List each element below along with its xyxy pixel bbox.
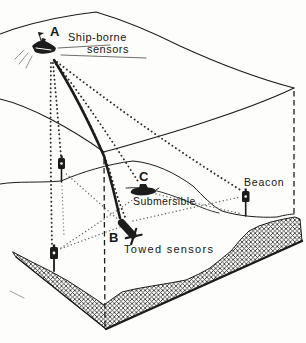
label-ship-borne-sensors-line1: Ship-borne — [68, 32, 127, 43]
sea-surface-outline — [0, 12, 294, 152]
label-beacon: Beacon — [244, 177, 284, 188]
label-ship-borne-sensors-line2: sensors — [87, 44, 129, 55]
beacon-icon — [242, 189, 250, 217]
ray-ship-to-submersible — [56, 63, 139, 183]
ray-upper-left-beacon-down — [62, 186, 64, 237]
seafloor-crosshatch — [10, 217, 302, 329]
acoustic-rays-from-ship — [51, 62, 242, 246]
figure-canvas: A Ship-borne sensors C Submersible B Tow… — [0, 0, 306, 343]
diagram-lineart — [0, 0, 306, 343]
label-submersible: Submersible — [133, 196, 196, 207]
seafloor-bottom-edge — [16, 257, 106, 329]
label-point-b: B — [109, 231, 118, 244]
label-point-c: C — [139, 170, 148, 183]
label-point-a: A — [50, 25, 59, 38]
submersible-icon — [131, 184, 159, 195]
ray-towed-to-upper-left-beacon — [64, 172, 122, 223]
ship-wake-strokes — [15, 50, 32, 68]
ray-ship-to-upper-left-beacon — [53, 63, 61, 157]
ray-ship-to-lower-left-beacon — [51, 63, 52, 246]
beacon-icon — [58, 156, 65, 183]
acoustic-rays-secondary — [60, 172, 242, 249]
label-towed-sensors: Towed sensors — [124, 244, 214, 255]
beacon-icon — [50, 245, 58, 272]
